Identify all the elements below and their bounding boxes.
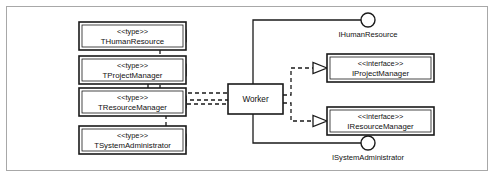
dependency-arrowhead-iprojectmanager — [313, 63, 327, 74]
class-stereotype: <<type>> — [117, 93, 148, 102]
dependency-arrowhead-iresourcemanager — [313, 116, 327, 127]
class-box-tprojectmanager[interactable]: <<type>> TProjectManager — [79, 56, 186, 84]
class-stereotype: <<interface>> — [358, 59, 404, 68]
class-box-thumanresource[interactable]: <<type>> THumanResource — [79, 22, 186, 50]
provided-interface-label-isystemadministrator: ISystemAdministrator — [332, 153, 405, 162]
class-box-tresourcemanager[interactable]: <<type>> TResourceManager — [79, 88, 186, 116]
class-name: TSystemAdministrator — [94, 141, 171, 150]
class-stereotype: <<type>> — [117, 27, 148, 36]
lollipop-isystemadministrator[interactable] — [361, 136, 375, 150]
class-box-iprojectmanager[interactable]: <<interface>> IProjectManager — [327, 54, 434, 82]
class-box-tsystemadministrator[interactable]: <<type>> TSystemAdministrator — [79, 126, 186, 154]
diagram-canvas: <<type>> THumanResource <<type>> TProjec… — [0, 0, 494, 177]
class-name: TProjectManager — [103, 71, 163, 80]
class-name: THumanResource — [101, 37, 164, 46]
provided-interface-label-ihumanresource: IHumanResource — [338, 30, 397, 39]
class-name: IProjectManager — [352, 69, 410, 78]
dependency-line-iprojectmanager — [283, 68, 313, 95]
component-worker[interactable]: Worker — [228, 84, 283, 114]
class-stereotype: <<type>> — [117, 131, 148, 140]
uml-diagram: <<type>> THumanResource <<type>> TProjec… — [0, 0, 494, 177]
class-name: TResourceManager — [98, 103, 167, 112]
class-box-iresourcemanager[interactable]: <<interface>> IResourceManager — [327, 107, 434, 135]
dependency-line-iresourcemanager — [283, 103, 313, 121]
component-label: Worker — [242, 95, 269, 104]
class-stereotype: <<type>> — [117, 61, 148, 70]
lollipop-ihumanresource[interactable] — [361, 13, 375, 27]
class-name: IResourceManager — [347, 122, 414, 131]
class-stereotype: <<interface>> — [358, 112, 404, 121]
